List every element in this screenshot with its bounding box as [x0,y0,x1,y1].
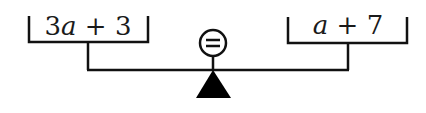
equals-circle-icon [200,30,226,70]
left-pan: 3a + 3 [29,11,148,70]
balance-scale-diagram: 3a + 3 a + 7 [0,0,426,113]
right-pan: a + 7 [288,10,407,70]
left-pan-expression: 3a + 3 [45,11,132,41]
triangle-fulcrum-icon [196,70,231,98]
right-pan-expression: a + 7 [313,10,383,40]
